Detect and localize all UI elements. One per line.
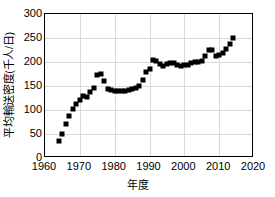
data-point [56, 139, 61, 144]
data-point [140, 78, 145, 83]
gridline-vertical [115, 14, 116, 156]
data-point [224, 46, 229, 51]
data-point [70, 106, 75, 111]
y-tick-label: 150 [16, 80, 42, 91]
data-point [220, 50, 225, 55]
data-point [203, 54, 208, 59]
gridline-horizontal [45, 62, 252, 63]
gridline-horizontal [45, 134, 252, 135]
gridline-vertical [150, 14, 151, 156]
data-point [63, 122, 68, 127]
data-point [102, 79, 107, 84]
x-tick-label: 1960 [32, 160, 56, 172]
x-axis-tick-labels: 1960197019801990200020102020 [0, 160, 275, 176]
gridline-vertical [219, 14, 220, 156]
gridline-vertical [184, 14, 185, 156]
x-tick-label: 1990 [136, 160, 160, 172]
data-point [60, 131, 65, 136]
x-tick-label: 2010 [206, 160, 230, 172]
gridline-horizontal [45, 86, 252, 87]
data-point [84, 94, 89, 99]
x-tick-label: 1980 [101, 160, 125, 172]
data-point [210, 47, 215, 52]
data-point [227, 41, 232, 46]
x-tick-label: 2020 [241, 160, 265, 172]
y-tick-label: 250 [16, 32, 42, 43]
data-point [137, 83, 142, 88]
x-axis-title: 年度 [0, 176, 275, 192]
data-point [231, 36, 236, 41]
gridline-horizontal [45, 110, 252, 111]
chart-figure: 平均輸送密度(千人/日) 050100150200250300 19601970… [0, 0, 275, 197]
data-point [147, 67, 152, 72]
x-tick-label: 1970 [67, 160, 91, 172]
x-tick-label: 2000 [171, 160, 195, 172]
data-point [91, 86, 96, 91]
y-tick-label: 300 [16, 8, 42, 19]
y-tick-label: 50 [16, 128, 42, 139]
data-point [77, 97, 82, 102]
y-tick-label: 200 [16, 56, 42, 67]
gridline-horizontal [45, 38, 252, 39]
gridline-vertical [80, 14, 81, 156]
data-point [67, 113, 72, 118]
y-tick-label: 100 [16, 104, 42, 115]
plot-area [44, 13, 253, 157]
data-point [199, 58, 204, 63]
data-point [98, 72, 103, 77]
